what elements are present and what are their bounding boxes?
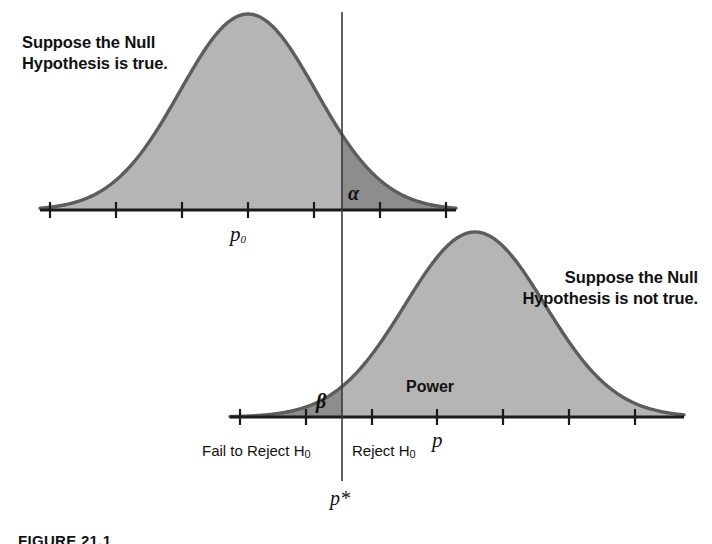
figure-container: Suppose the Null Hypothesis is true. Sup… xyxy=(0,0,712,544)
power-label: Power xyxy=(406,378,454,396)
annotation-null-not-true: Suppose the Null Hypothesis is not true. xyxy=(480,267,698,310)
p-critical-label: p* xyxy=(330,487,350,510)
reject-label: Reject H0 xyxy=(352,442,416,460)
fail-to-reject-subscript: 0 xyxy=(305,448,311,460)
fail-to-reject-text: Fail to Reject H xyxy=(202,442,305,459)
alpha-region-shading xyxy=(342,0,458,210)
reject-subscript: 0 xyxy=(410,448,416,460)
reject-text: Reject H xyxy=(352,442,410,459)
p-null-subscript: 0 xyxy=(241,233,247,245)
figure-caption: FIGURE 21.1 xyxy=(18,532,111,544)
annotation-null-true: Suppose the Null Hypothesis is true. xyxy=(22,32,168,75)
fail-to-reject-label: Fail to Reject H0 xyxy=(202,442,311,460)
p-alt-axis-label: p xyxy=(432,428,443,453)
beta-label: β xyxy=(316,390,326,413)
alternative-curve-fill xyxy=(230,232,684,417)
alpha-label: α xyxy=(348,182,359,205)
p-null-axis-label: p0 xyxy=(230,222,246,247)
p-null-symbol: p xyxy=(230,222,241,246)
